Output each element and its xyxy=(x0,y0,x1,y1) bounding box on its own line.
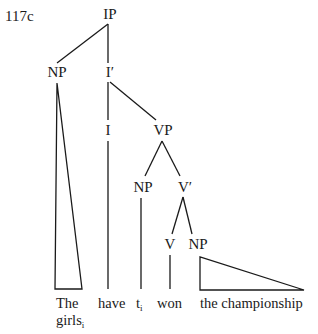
leaf-the-championship: the championship xyxy=(200,295,303,311)
edge-ip-np xyxy=(57,24,108,63)
edge-vp-np xyxy=(145,141,162,176)
leaf-girls: girlsi xyxy=(56,312,85,330)
leaf-won: won xyxy=(157,295,183,311)
node-vp: VP xyxy=(153,122,172,138)
syntax-tree: 117c IP NP I′ I VP NP V′ V NP The girlsi… xyxy=(0,0,318,334)
node-ip: IP xyxy=(103,6,116,22)
example-number: 117c xyxy=(5,8,34,24)
node-v: V xyxy=(165,236,176,252)
edge-ibar-vp xyxy=(110,82,156,120)
node-np-trace: NP xyxy=(133,179,152,195)
edge-vbar-np xyxy=(183,197,192,234)
node-i-bar: I′ xyxy=(106,64,114,80)
node-np-subject: NP xyxy=(47,64,66,80)
leaf-trace: ti xyxy=(136,295,143,313)
node-np-object: NP xyxy=(188,236,207,252)
edge-vp-vbar xyxy=(162,141,180,176)
edge-vbar-v xyxy=(172,197,183,234)
triangle-np-subject xyxy=(55,83,82,289)
leaf-have: have xyxy=(98,295,125,311)
triangle-np-object xyxy=(200,257,304,290)
leaf-the: The xyxy=(56,295,79,311)
node-v-bar: V′ xyxy=(178,179,192,195)
node-i: I xyxy=(106,122,111,138)
